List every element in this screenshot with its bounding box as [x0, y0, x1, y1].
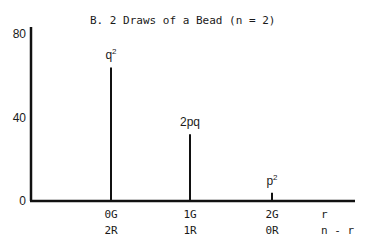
x-tick-label: 0G	[104, 208, 117, 221]
x-axis-end-label-r: r	[321, 208, 328, 221]
bar-label: 2pq	[180, 115, 200, 129]
x-axis-end-label-n-minus-r: n - r	[321, 224, 354, 237]
bar-label: p2	[266, 173, 278, 188]
x-tick-label: 1G	[183, 208, 196, 221]
x-tick-label: 0R	[265, 224, 279, 237]
x-tick-label: 1R	[183, 224, 197, 237]
x-tick-label: 2R	[104, 224, 118, 237]
y-tick-label: 40	[13, 111, 27, 125]
y-tick-label: 80	[13, 27, 27, 41]
bar-label: q2	[105, 47, 117, 62]
x-tick-label: 2G	[265, 208, 278, 221]
chart-title: B. 2 Draws of a Bead (n = 2)	[90, 14, 275, 27]
y-tick-label: 0	[19, 194, 26, 208]
bead-draws-chart: B. 2 Draws of a Bead (n = 2) 04080 q22pq…	[0, 0, 369, 241]
